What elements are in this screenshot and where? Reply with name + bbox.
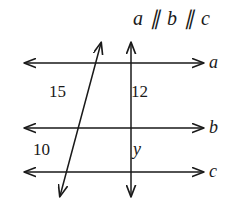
segment-label-15: 15 bbox=[49, 83, 66, 100]
line-label-c: c bbox=[209, 162, 217, 180]
slanted-transversal bbox=[60, 43, 101, 196]
segment-label-y: y bbox=[133, 140, 141, 158]
parallel-lines-diagram bbox=[0, 0, 243, 202]
segment-label-12: 12 bbox=[131, 83, 148, 100]
line-label-b: b bbox=[209, 118, 218, 136]
parallel-relation-title: a ∥ b ∥ c bbox=[133, 8, 211, 28]
line-label-a: a bbox=[209, 53, 218, 71]
geometry-figure: a ∥ b ∥ c a b c 15 12 10 y bbox=[0, 0, 243, 202]
segment-label-10: 10 bbox=[33, 141, 50, 158]
